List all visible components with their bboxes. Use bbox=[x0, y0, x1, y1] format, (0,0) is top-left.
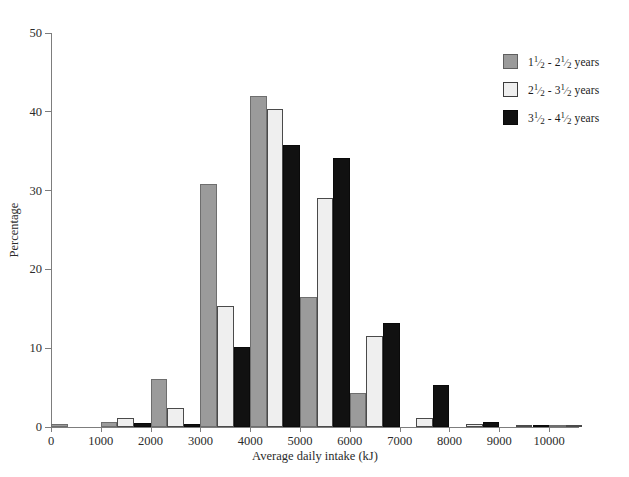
legend-swatch bbox=[503, 110, 518, 125]
legend-label: 31⁄2 - 41⁄2 years bbox=[528, 112, 599, 124]
legend-label: 11⁄2 - 21⁄2 years bbox=[528, 56, 599, 68]
bar bbox=[51, 424, 68, 427]
x-tick-mark bbox=[250, 427, 251, 432]
x-tick-mark bbox=[151, 427, 152, 432]
bar bbox=[250, 96, 267, 427]
plot-area bbox=[51, 33, 579, 427]
x-tick-mark bbox=[200, 427, 201, 432]
bar bbox=[234, 347, 251, 427]
bar bbox=[101, 422, 118, 427]
x-tick-mark bbox=[350, 427, 351, 432]
bar bbox=[317, 198, 334, 427]
y-tick-label: 50 bbox=[30, 24, 43, 42]
y-tick-label: 20 bbox=[30, 260, 43, 278]
x-tick-label: 7000 bbox=[387, 433, 412, 449]
bar bbox=[200, 184, 217, 427]
bar bbox=[151, 379, 168, 427]
bar-chart: 01020304050 0100020003000400050006000700… bbox=[0, 0, 629, 477]
x-tick-label: 1000 bbox=[88, 433, 113, 449]
legend-item[interactable]: 31⁄2 - 41⁄2 years bbox=[503, 108, 599, 127]
bar bbox=[483, 422, 500, 427]
x-tick-mark bbox=[101, 427, 102, 432]
x-tick-label: 3000 bbox=[188, 433, 213, 449]
x-tick-label: 2000 bbox=[138, 433, 163, 449]
bar bbox=[217, 306, 234, 427]
x-tick-label: 4000 bbox=[238, 433, 263, 449]
bar bbox=[383, 323, 400, 427]
x-tick-mark bbox=[300, 427, 301, 432]
x-tick-mark bbox=[499, 427, 500, 432]
legend-swatch bbox=[503, 82, 518, 97]
bar bbox=[184, 424, 201, 427]
bar bbox=[134, 423, 151, 427]
bar bbox=[267, 109, 284, 427]
bar bbox=[549, 425, 566, 427]
x-tick-label: 5000 bbox=[288, 433, 313, 449]
legend-item[interactable]: 11⁄2 - 21⁄2 years bbox=[503, 52, 599, 71]
x-tick-label: 8000 bbox=[437, 433, 462, 449]
x-tick-label: 9000 bbox=[487, 433, 512, 449]
bar bbox=[300, 297, 317, 427]
bar bbox=[117, 418, 134, 427]
y-tick-label: 30 bbox=[30, 182, 43, 200]
x-tick-label: 6000 bbox=[337, 433, 362, 449]
bar bbox=[333, 158, 350, 427]
bar bbox=[283, 145, 300, 427]
x-tick-label: 0 bbox=[48, 433, 54, 449]
y-axis-title: Percentage bbox=[7, 203, 22, 258]
x-tick-mark bbox=[449, 427, 450, 432]
bar bbox=[366, 336, 383, 427]
bar bbox=[350, 393, 367, 427]
legend: 11⁄2 - 21⁄2 years21⁄2 - 31⁄2 years31⁄2 -… bbox=[503, 52, 599, 136]
bar bbox=[533, 425, 550, 427]
bar bbox=[466, 424, 483, 427]
y-tick-label: 10 bbox=[30, 339, 43, 357]
x-tick-mark bbox=[549, 427, 550, 432]
bar bbox=[566, 425, 583, 427]
x-tick-mark bbox=[51, 427, 52, 432]
legend-label: 21⁄2 - 31⁄2 years bbox=[528, 84, 599, 96]
bar bbox=[433, 385, 450, 427]
bar bbox=[516, 425, 533, 427]
y-tick-label: 40 bbox=[30, 103, 43, 121]
y-tick-label: 0 bbox=[36, 418, 42, 436]
legend-swatch bbox=[503, 54, 518, 69]
bar bbox=[416, 418, 433, 427]
x-axis-title: Average daily intake (kJ) bbox=[51, 449, 579, 464]
x-tick-label: 10000 bbox=[533, 433, 564, 449]
legend-item[interactable]: 21⁄2 - 31⁄2 years bbox=[503, 80, 599, 99]
bar bbox=[167, 408, 184, 427]
x-tick-mark bbox=[400, 427, 401, 432]
